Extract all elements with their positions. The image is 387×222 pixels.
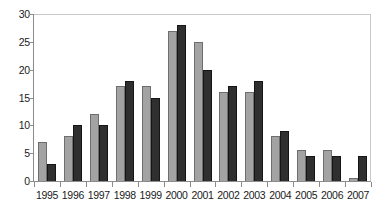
x-axis-tick-label: 2006	[319, 190, 345, 201]
x-axis-tick-mark	[371, 182, 372, 187]
y-axis-tick-mark	[29, 125, 34, 126]
bar-series-2-2000	[177, 25, 186, 181]
bar-series-1-2006	[323, 150, 332, 181]
bar-group	[219, 14, 237, 181]
bar-series-1-2001	[194, 42, 203, 181]
plot-area	[34, 14, 371, 181]
bar-series-1-1995	[38, 142, 47, 181]
x-axis-tick-mark	[164, 182, 165, 187]
x-axis-tick-mark	[293, 182, 294, 187]
x-axis-tick-mark	[345, 182, 346, 187]
y-axis: 051015202530	[0, 0, 30, 222]
x-axis-tick-mark	[319, 182, 320, 187]
x-axis-tick-mark	[86, 182, 87, 187]
y-axis-tick-label: 5	[2, 148, 30, 158]
y-axis-tick-label: 25	[2, 37, 30, 47]
bar-group	[245, 14, 263, 181]
bar-series-2-2004	[280, 131, 289, 181]
bar-group	[116, 14, 134, 181]
x-axis-tick-mark	[215, 182, 216, 187]
y-axis-tick-mark	[29, 153, 34, 154]
x-axis-tick-label: 2005	[293, 190, 319, 201]
bar-series-2-1997	[99, 125, 108, 181]
x-axis-tick-label: 1998	[112, 190, 138, 201]
x-axis-tick-label: 2002	[215, 190, 241, 201]
bar-series-1-2000	[168, 31, 177, 181]
bar-series-1-2002	[219, 92, 228, 181]
x-axis-tick-label: 1996	[60, 190, 86, 201]
bar-group	[349, 14, 367, 181]
bar-group	[194, 14, 212, 181]
bar-series-2-2007	[358, 156, 367, 181]
bar-group	[168, 14, 186, 181]
x-axis-tick-mark	[190, 182, 191, 187]
x-axis-tick-mark	[267, 182, 268, 187]
bar-series-1-1998	[116, 86, 125, 181]
y-axis-tick-mark	[29, 70, 34, 71]
x-axis-tick-mark	[112, 182, 113, 187]
bar-series-2-2005	[306, 156, 315, 181]
bar-group	[64, 14, 82, 181]
y-axis-tick-label: 0	[2, 176, 30, 186]
y-axis-tick-label: 10	[2, 120, 30, 130]
bar-series-2-1998	[125, 81, 134, 181]
x-axis-tick-mark	[60, 182, 61, 187]
x-axis-tick-label: 2003	[241, 190, 267, 201]
y-axis-tick-mark	[29, 98, 34, 99]
x-axis-tick-mark	[34, 182, 35, 187]
x-axis-tick-label: 2007	[345, 190, 371, 201]
bar-series-2-1996	[73, 125, 82, 181]
x-axis-tick-mark	[138, 182, 139, 187]
y-axis-tick-label: 20	[2, 65, 30, 75]
bar-series-1-1999	[142, 86, 151, 181]
bar-group	[142, 14, 160, 181]
bar-series-2-1995	[47, 164, 56, 181]
bar-series-2-2006	[332, 156, 341, 181]
bar-series-1-1996	[64, 136, 73, 181]
x-axis-tick-mark	[241, 182, 242, 187]
bar-group	[323, 14, 341, 181]
x-axis-tick-label: 2000	[164, 190, 190, 201]
bar-series-1-2003	[245, 92, 254, 181]
x-axis-tick-label: 2001	[190, 190, 216, 201]
y-axis-tick-mark	[29, 42, 34, 43]
x-axis-tick-label: 1997	[86, 190, 112, 201]
bar-series-1-1997	[90, 114, 99, 181]
y-axis-tick-label: 15	[2, 93, 30, 103]
bar-series-2-2002	[228, 86, 237, 181]
x-axis: 1995199619971998199920002001200220032004…	[34, 190, 371, 210]
x-axis-tick-label: 1999	[138, 190, 164, 201]
bar-series-2-2003	[254, 81, 263, 181]
bar-series-1-2004	[271, 136, 280, 181]
bar-group	[38, 14, 56, 181]
bar-series-2-1999	[151, 98, 160, 182]
bar-group	[90, 14, 108, 181]
bar-series-1-2005	[297, 150, 306, 181]
x-axis-line	[33, 181, 371, 182]
y-axis-tick-mark	[29, 14, 34, 15]
bar-series-2-2001	[203, 70, 212, 181]
bar-chart: 051015202530 199519961997199819992000200…	[0, 0, 387, 222]
y-axis-tick-label: 30	[2, 9, 30, 19]
bar-group	[271, 14, 289, 181]
bar-group	[297, 14, 315, 181]
x-axis-tick-label: 1995	[34, 190, 60, 201]
x-axis-tick-label: 2004	[267, 190, 293, 201]
